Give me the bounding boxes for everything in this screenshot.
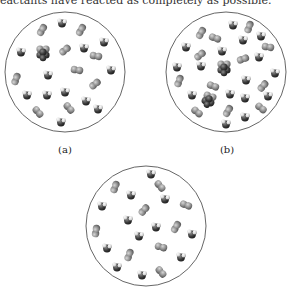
molecule-bent — [176, 252, 186, 261]
molecule-diatomic — [31, 105, 45, 119]
molecule-diagram — [0, 0, 290, 287]
molecule-diatomic — [91, 224, 100, 238]
molecule-bent — [187, 229, 197, 238]
molecule-bent — [172, 62, 182, 71]
molecule-bent — [102, 243, 112, 252]
molecule-diatomic — [88, 77, 102, 91]
molecule-bent — [221, 119, 231, 128]
molecule-bent — [93, 104, 103, 113]
molecule-bent — [270, 68, 280, 77]
molecule-bent — [99, 37, 109, 46]
panel-a — [5, 12, 125, 132]
molecule-diatomic — [154, 265, 168, 279]
molecule-bent — [240, 93, 250, 102]
panel-b — [166, 12, 286, 132]
molecule-bent — [16, 47, 26, 56]
panel-label-a: (a) — [58, 144, 72, 155]
panel-c — [86, 166, 206, 286]
molecule-diatomic — [153, 179, 167, 193]
molecule-diatomic — [243, 20, 254, 34]
molecule-bent — [112, 262, 122, 271]
molecule-diatomic — [254, 101, 268, 115]
molecule-cluster — [217, 60, 230, 76]
molecule-bent — [228, 20, 238, 29]
molecule-diatomic — [193, 48, 207, 62]
molecule-bent — [254, 52, 264, 61]
molecule-bent — [241, 75, 251, 84]
molecule-bent — [126, 190, 136, 199]
molecule-diatomic — [195, 26, 208, 41]
molecule-bent — [57, 18, 67, 27]
molecule-diatomic — [75, 23, 88, 38]
molecule-diatomic — [206, 80, 220, 91]
molecule-diatomic — [261, 42, 275, 51]
molecule-bent — [137, 270, 147, 279]
molecule-diatomic — [208, 32, 222, 43]
molecule-bent — [42, 90, 52, 99]
molecule-bent — [151, 222, 161, 231]
molecule-diatomic — [89, 51, 103, 60]
molecule-cluster — [36, 45, 49, 61]
molecule-bent — [81, 96, 91, 105]
molecule-bent — [22, 90, 32, 99]
molecule-bent — [56, 117, 66, 126]
molecule-diatomic — [190, 105, 204, 119]
molecule-diatomic — [256, 79, 270, 93]
molecule-bent — [123, 215, 133, 224]
molecule-bent — [134, 231, 144, 240]
molecule-bent — [181, 42, 191, 51]
molecule-bent — [225, 89, 235, 98]
molecule-diatomic — [58, 43, 72, 57]
molecule-diatomic — [62, 101, 76, 115]
molecule-bent — [196, 61, 206, 70]
molecule-diatomic — [170, 220, 183, 235]
molecule-diatomic — [154, 242, 168, 252]
panel-label-b: (b) — [220, 144, 234, 155]
molecule-bent — [263, 91, 273, 100]
molecule-cluster — [200, 91, 218, 110]
container-circle — [5, 12, 125, 132]
molecule-bent — [240, 112, 250, 121]
molecule-diatomic — [173, 74, 184, 88]
molecule-diatomic — [222, 104, 235, 119]
molecule-bent — [106, 65, 116, 74]
container-circle — [86, 166, 206, 286]
molecule-diatomic — [179, 199, 193, 210]
molecule-bent — [187, 90, 197, 99]
molecule-bent — [79, 43, 89, 52]
molecule-bent — [146, 169, 156, 178]
molecule-bent — [60, 87, 70, 96]
molecule-bent — [256, 31, 266, 40]
molecule-bent — [97, 201, 107, 210]
molecule-diatomic — [10, 72, 21, 86]
molecule-diatomic — [236, 53, 250, 64]
molecule-diatomic — [137, 203, 151, 217]
molecule-diatomic — [70, 65, 84, 74]
molecule-bent — [217, 46, 227, 55]
molecule-bent — [238, 35, 248, 44]
molecule-diatomic — [109, 180, 120, 194]
molecule-bent — [160, 194, 170, 203]
molecule-diatomic — [123, 248, 134, 262]
molecule-bent — [43, 70, 53, 79]
molecule-diatomic — [36, 23, 49, 38]
